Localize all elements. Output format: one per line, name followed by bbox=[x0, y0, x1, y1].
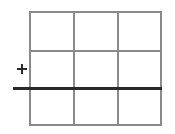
grid-horizontal-divider-1 bbox=[31, 50, 160, 52]
grid-vertical-divider-1 bbox=[73, 13, 75, 124]
grid-vertical-divider-2 bbox=[117, 13, 119, 124]
thick-horizontal-line bbox=[13, 87, 162, 90]
three-by-three-grid bbox=[29, 11, 162, 126]
plus-icon bbox=[17, 64, 27, 74]
